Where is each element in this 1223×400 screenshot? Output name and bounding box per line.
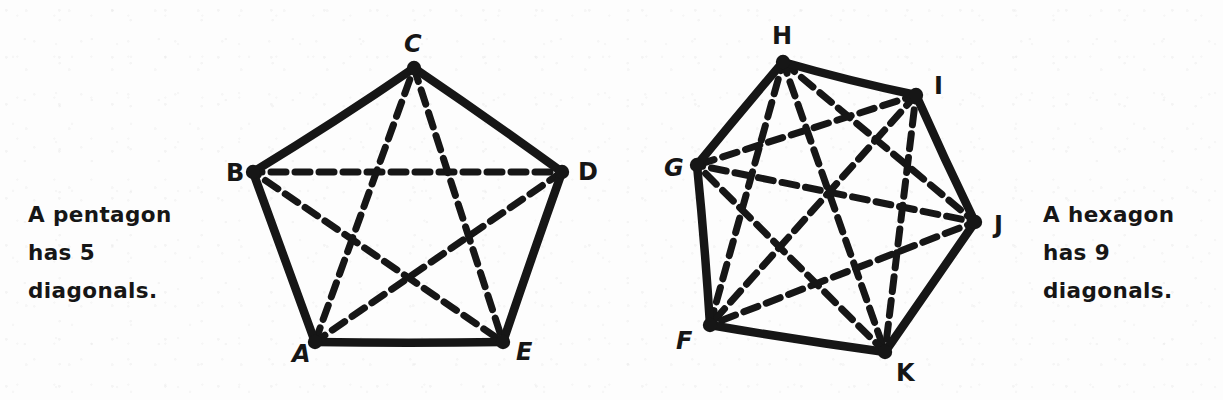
vertex-label-H: H <box>772 22 792 50</box>
diagonal-AD <box>315 172 562 342</box>
vertex-label-B: B <box>226 159 244 187</box>
diagonal-JG <box>697 165 975 222</box>
vertex-label-F: F <box>676 327 693 355</box>
edge-BC <box>253 68 414 172</box>
diagram-page: A pentagon has 5 diagonals. A hexagon ha… <box>0 0 1223 400</box>
edge-DE <box>503 172 562 342</box>
diagonal-BE <box>253 172 503 342</box>
vertex-dot-I <box>909 88 923 102</box>
vertex-label-C: C <box>404 30 422 58</box>
vertex-dot-E <box>496 335 510 349</box>
edge-AB <box>253 172 315 342</box>
vertex-label-I: I <box>934 72 943 100</box>
edge-EA <box>315 342 503 343</box>
polygon-diagrams: CDEAB HIJKFG <box>0 0 1223 400</box>
vertex-dot-C <box>407 61 421 75</box>
vertex-dot-H <box>776 55 790 69</box>
vertex-dot-K <box>878 345 892 359</box>
vertex-dot-D <box>555 165 569 179</box>
pentagon-figure: CDEAB <box>226 30 598 368</box>
vertex-dot-J <box>968 215 982 229</box>
hexagon-diagonals <box>697 62 975 352</box>
hexagon-figure: HIJKFG <box>664 22 1003 387</box>
diagonal-AC <box>315 68 414 342</box>
vertex-label-G: G <box>664 154 684 182</box>
diagonal-HK <box>783 62 885 352</box>
diagonal-CE <box>414 68 503 342</box>
vertex-label-E: E <box>516 338 533 366</box>
vertex-label-K: K <box>896 359 916 387</box>
vertex-dot-G <box>690 158 704 172</box>
vertex-dot-B <box>246 165 260 179</box>
vertex-label-A: A <box>290 340 311 368</box>
edge-CD <box>414 68 562 172</box>
vertex-label-J: J <box>992 211 1003 239</box>
vertex-dot-F <box>703 318 717 332</box>
edge-IJ <box>916 95 975 222</box>
vertex-label-D: D <box>578 158 598 186</box>
edge-FG <box>697 165 710 325</box>
